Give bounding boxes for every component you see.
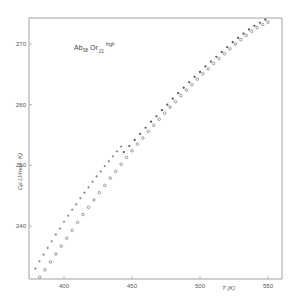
cross-marker xyxy=(83,192,85,194)
filled-dot-marker xyxy=(210,61,212,63)
cross-marker xyxy=(104,165,106,167)
cross-marker xyxy=(67,215,69,217)
filled-dot-marker xyxy=(161,109,163,111)
open-circle-marker xyxy=(261,23,264,26)
x-tick-label: 500 xyxy=(195,283,206,289)
open-circle-marker xyxy=(93,199,96,202)
open-circle-marker xyxy=(207,68,210,71)
filled-dot-marker xyxy=(221,51,223,53)
filled-dot-marker xyxy=(215,56,217,58)
filled-dot-marker xyxy=(145,127,147,129)
filled-dot-marker xyxy=(193,76,195,78)
open-circle-marker xyxy=(44,269,47,272)
cross-marker xyxy=(91,181,93,183)
cross-marker xyxy=(87,186,89,188)
open-circle-marker xyxy=(180,94,183,97)
cross-marker xyxy=(108,160,110,162)
chart: 240250260270 400450500550 Ab 98 Or 21 hi… xyxy=(0,0,295,299)
open-circle-marker xyxy=(38,276,41,279)
filled-dot-marker xyxy=(242,33,244,35)
open-circle-marker xyxy=(55,253,58,256)
open-circle-marker xyxy=(87,206,90,209)
open-circle-marker xyxy=(76,221,79,224)
open-circle-marker xyxy=(82,213,85,216)
cross-marker xyxy=(34,267,36,269)
filled-dot-marker xyxy=(199,71,201,73)
cross-marker xyxy=(116,150,118,152)
filled-dot-marker xyxy=(204,65,206,67)
x-axis-label: T (K) xyxy=(222,285,235,291)
open-circle-marker xyxy=(131,150,134,153)
filled-dot-marker xyxy=(123,151,125,153)
plot-frame xyxy=(29,18,282,279)
data-points xyxy=(34,19,269,279)
y-axis-label: Cp (J/mol · K) xyxy=(17,153,23,190)
filled-dot-marker xyxy=(150,121,152,123)
open-circle-marker xyxy=(163,112,166,115)
filled-dot-marker xyxy=(226,46,228,48)
open-circle-marker xyxy=(158,118,161,121)
filled-dot-marker xyxy=(177,92,179,94)
open-circle-marker xyxy=(234,43,237,46)
open-circle-marker xyxy=(212,62,215,65)
filled-dot-marker xyxy=(128,145,130,147)
open-circle-marker xyxy=(169,106,172,109)
title-sup: high xyxy=(106,42,115,47)
y-tick-label: 260 xyxy=(16,102,27,108)
open-circle-marker xyxy=(49,261,52,264)
open-circle-marker xyxy=(245,34,248,37)
filled-dot-marker xyxy=(237,37,239,39)
open-circle-marker xyxy=(218,57,221,60)
x-tick-label: 450 xyxy=(127,283,138,289)
cross-marker xyxy=(100,170,102,172)
cross-marker xyxy=(46,247,48,249)
title-or-sub: 21 xyxy=(99,49,105,54)
title-ab-sub: 98 xyxy=(83,48,89,53)
x-tick-label: 550 xyxy=(263,283,274,289)
open-circle-marker xyxy=(201,72,204,75)
open-circle-marker xyxy=(120,163,123,166)
open-circle-marker xyxy=(109,177,112,180)
open-circle-marker xyxy=(223,52,226,55)
open-circle-marker xyxy=(71,229,74,232)
cross-marker xyxy=(112,155,114,157)
cross-marker xyxy=(71,209,73,211)
open-circle-marker xyxy=(98,191,101,194)
open-circle-marker xyxy=(147,130,150,133)
open-circle-marker xyxy=(196,78,199,81)
y-axis-ticks: 240250260270 xyxy=(16,41,32,229)
cross-marker xyxy=(59,227,61,229)
cross-marker xyxy=(120,145,122,147)
filled-dot-marker xyxy=(253,25,255,27)
filled-dot-marker xyxy=(188,81,190,83)
title-or: Or xyxy=(90,44,98,51)
filled-dot-marker xyxy=(183,87,185,89)
filled-dot-marker xyxy=(248,28,250,30)
open-circle-marker xyxy=(114,170,117,173)
cross-marker xyxy=(63,221,65,223)
open-circle-marker xyxy=(240,38,243,41)
filled-dot-marker xyxy=(155,115,157,117)
cross-marker xyxy=(55,233,57,235)
open-circle-marker xyxy=(136,143,139,146)
open-circle-marker xyxy=(60,245,63,248)
chart-title: Ab 98 Or 21 high xyxy=(74,42,115,54)
cross-marker xyxy=(38,260,40,262)
filled-dot-marker xyxy=(232,41,234,43)
open-circle-marker xyxy=(191,83,194,86)
cross-marker xyxy=(75,203,77,205)
open-circle-marker xyxy=(142,137,145,140)
open-circle-marker xyxy=(152,124,155,127)
title-ab: Ab xyxy=(74,44,83,51)
filled-dot-marker xyxy=(166,104,168,106)
filled-dot-marker xyxy=(139,133,141,135)
open-circle-marker xyxy=(125,156,128,159)
open-circle-marker xyxy=(256,26,259,29)
y-tick-label: 240 xyxy=(16,223,27,229)
x-tick-label: 400 xyxy=(59,283,70,289)
cross-marker xyxy=(79,197,81,199)
filled-dot-marker xyxy=(264,19,266,21)
filled-dot-marker xyxy=(134,139,136,141)
open-circle-marker xyxy=(185,89,188,92)
open-circle-marker xyxy=(229,48,232,51)
